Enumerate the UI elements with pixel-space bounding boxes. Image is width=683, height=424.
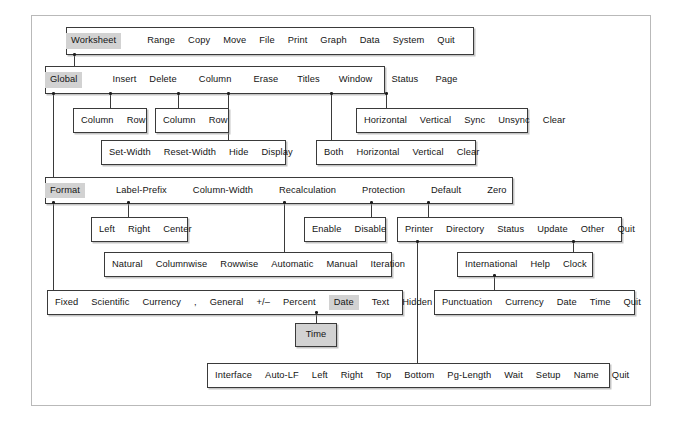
label-prefix-submenu[interactable]: Left Right Center <box>91 217 188 242</box>
menu-item-fmt-scientific[interactable]: Scientific <box>91 298 129 307</box>
menu-item-default-update[interactable]: Update <box>537 225 568 234</box>
menu-item-fmt-comma[interactable]: , <box>194 298 197 307</box>
default-submenu[interactable]: Printer Directory Status Update Other Qu… <box>397 217 622 242</box>
menu-item-worksheet[interactable]: Worksheet <box>66 33 121 48</box>
menu-item-titles-horizontal[interactable]: Horizontal <box>357 148 400 157</box>
menu-item-printer-name[interactable]: Name <box>574 371 599 380</box>
international-submenu[interactable]: Punctuation Currency Date Time Quit <box>434 290 635 315</box>
menu-item-printer-top[interactable]: Top <box>376 371 391 380</box>
menu-item-copy[interactable]: Copy <box>188 36 210 45</box>
menu-item-column-width[interactable]: Column-Width <box>193 186 253 195</box>
menu-item-window-horizontal[interactable]: Horizontal <box>364 116 407 125</box>
menu-item-printer-left[interactable]: Left <box>312 371 328 380</box>
menu-item-default-directory[interactable]: Directory <box>446 225 484 234</box>
menu-item-move[interactable]: Move <box>223 36 246 45</box>
menu-item-default[interactable]: Default <box>431 186 461 195</box>
menu-item-fmt-currency[interactable]: Currency <box>142 298 181 307</box>
printer-submenu[interactable]: Interface Auto-LF Left Right Top Bottom … <box>207 363 610 388</box>
menu-item-intl-punctuation[interactable]: Punctuation <box>442 298 492 307</box>
menu-item-range[interactable]: Range <box>147 36 175 45</box>
menu-item-printer-wait[interactable]: Wait <box>504 371 523 380</box>
menu-item-protection-enable[interactable]: Enable <box>312 225 342 234</box>
menu-item-intl-currency[interactable]: Currency <box>505 298 544 307</box>
menu-item-printer-bottom[interactable]: Bottom <box>404 371 434 380</box>
global-submenu[interactable]: Format Label-Prefix Column-Width Recalcu… <box>45 177 513 204</box>
menu-item-delete-column[interactable]: Column <box>163 116 196 125</box>
menu-item-column[interactable]: Column <box>199 75 232 84</box>
menu-item-insert-row[interactable]: Row <box>127 116 146 125</box>
menu-item-file[interactable]: File <box>259 36 274 45</box>
menu-item-protection[interactable]: Protection <box>362 186 405 195</box>
titles-submenu[interactable]: Both Horizontal Vertical Clear <box>316 140 476 165</box>
menu-item-column-resetwidth[interactable]: Reset-Width <box>164 148 216 157</box>
delete-submenu[interactable]: Column Row <box>155 108 229 133</box>
worksheet-main-menu[interactable]: Worksheet Range Copy Move File Print Gra… <box>66 27 474 55</box>
menu-item-delete-row[interactable]: Row <box>209 116 228 125</box>
menu-item-other-international[interactable]: International <box>465 260 517 269</box>
menu-item-recalc-automatic[interactable]: Automatic <box>271 260 313 269</box>
menu-item-insert[interactable]: Insert <box>112 75 136 84</box>
menu-item-other-clock[interactable]: Clock <box>563 260 587 269</box>
menu-item-recalc-manual[interactable]: Manual <box>326 260 357 269</box>
menu-item-recalc-iteration[interactable]: Iteration <box>371 260 406 269</box>
menu-item-fmt-hidden[interactable]: Hidden <box>402 298 432 307</box>
menu-item-fmt-text[interactable]: Text <box>372 298 389 307</box>
menu-item-printer-autolf[interactable]: Auto-LF <box>265 371 299 380</box>
menu-item-recalc-rowwise[interactable]: Rowwise <box>220 260 258 269</box>
menu-item-intl-quit[interactable]: Quit <box>624 298 641 307</box>
menu-item-print[interactable]: Print <box>288 36 308 45</box>
menu-item-column-display[interactable]: Display <box>262 148 293 157</box>
insert-submenu[interactable]: Column Row <box>73 108 147 133</box>
menu-item-intl-time[interactable]: Time <box>590 298 611 307</box>
menu-item-insert-column[interactable]: Column <box>81 116 114 125</box>
menu-item-lp-right[interactable]: Right <box>128 225 150 234</box>
menu-item-recalculation[interactable]: Recalculation <box>279 186 336 195</box>
menu-item-window-clear[interactable]: Clear <box>543 116 566 125</box>
menu-item-lp-center[interactable]: Center <box>163 225 192 234</box>
menu-item-quit[interactable]: Quit <box>437 36 454 45</box>
menu-item-graph[interactable]: Graph <box>320 36 346 45</box>
menu-item-default-other[interactable]: Other <box>581 225 605 234</box>
menu-item-delete[interactable]: Delete <box>149 75 176 84</box>
menu-item-printer-right[interactable]: Right <box>341 371 363 380</box>
menu-item-format[interactable]: Format <box>45 183 85 198</box>
menu-item-window-vertical[interactable]: Vertical <box>420 116 451 125</box>
menu-item-zero[interactable]: Zero <box>487 186 507 195</box>
menu-item-default-printer[interactable]: Printer <box>405 225 433 234</box>
menu-item-recalc-columnwise[interactable]: Columnwise <box>156 260 208 269</box>
menu-item-other-help[interactable]: Help <box>530 260 550 269</box>
menu-item-window[interactable]: Window <box>339 75 373 84</box>
menu-item-date-time[interactable]: Time <box>306 330 327 339</box>
menu-item-titles[interactable]: Titles <box>297 75 319 84</box>
menu-item-fmt-plusminus[interactable]: +/– <box>256 298 269 307</box>
menu-item-column-setwidth[interactable]: Set-Width <box>109 148 151 157</box>
column-submenu[interactable]: Set-Width Reset-Width Hide Display <box>101 140 286 165</box>
menu-item-fmt-general[interactable]: General <box>210 298 244 307</box>
menu-item-label-prefix[interactable]: Label-Prefix <box>116 186 167 195</box>
menu-item-fmt-fixed[interactable]: Fixed <box>55 298 78 307</box>
menu-item-system[interactable]: System <box>393 36 425 45</box>
menu-item-window-unsync[interactable]: Unsync <box>498 116 530 125</box>
other-submenu[interactable]: International Help Clock <box>457 252 593 277</box>
menu-item-column-hide[interactable]: Hide <box>229 148 249 157</box>
menu-item-printer-setup[interactable]: Setup <box>536 371 561 380</box>
protection-submenu[interactable]: Enable Disable <box>304 217 386 242</box>
menu-item-printer-quit[interactable]: Quit <box>612 371 629 380</box>
worksheet-submenu[interactable]: Global Insert Delete Column Erase Titles… <box>45 66 385 94</box>
menu-item-status[interactable]: Status <box>391 75 418 84</box>
date-submenu[interactable]: Time <box>295 323 337 347</box>
menu-item-printer-pglength[interactable]: Pg-Length <box>447 371 491 380</box>
menu-item-recalc-natural[interactable]: Natural <box>112 260 143 269</box>
menu-item-fmt-date[interactable]: Date <box>329 295 359 310</box>
menu-item-titles-vertical[interactable]: Vertical <box>412 148 443 157</box>
menu-item-erase[interactable]: Erase <box>253 75 278 84</box>
menu-item-page[interactable]: Page <box>435 75 457 84</box>
menu-item-titles-clear[interactable]: Clear <box>457 148 480 157</box>
menu-item-default-status[interactable]: Status <box>497 225 524 234</box>
menu-item-fmt-percent[interactable]: Percent <box>283 298 316 307</box>
menu-item-global[interactable]: Global <box>45 72 82 87</box>
format-submenu[interactable]: Fixed Scientific Currency , General +/– … <box>47 290 403 315</box>
menu-item-printer-interface[interactable]: Interface <box>215 371 252 380</box>
menu-item-default-quit[interactable]: Quit <box>618 225 635 234</box>
menu-item-window-sync[interactable]: Sync <box>464 116 485 125</box>
